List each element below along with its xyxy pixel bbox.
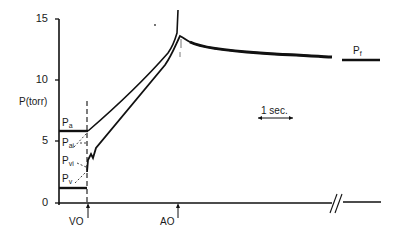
label-ao: AO: [160, 217, 174, 227]
y-tick-10: 10: [28, 74, 48, 85]
label-pai: Pai: [62, 138, 74, 151]
label-pa: Pa: [62, 118, 73, 131]
label-pv: Pv: [62, 174, 72, 187]
scale-bar-label: 1 sec.: [261, 106, 288, 116]
label-vo: VO: [69, 217, 83, 227]
y-tick-0: 0: [28, 197, 48, 208]
y-tick-5: 5: [28, 135, 48, 146]
y-axis-title: P(torr): [19, 97, 47, 107]
y-tick-15: 15: [28, 13, 48, 24]
label-pf: Pf: [353, 46, 362, 59]
pa-trace: [88, 10, 178, 131]
label-pvi: Pvi: [62, 156, 74, 169]
pressure-chart: [0, 0, 401, 238]
